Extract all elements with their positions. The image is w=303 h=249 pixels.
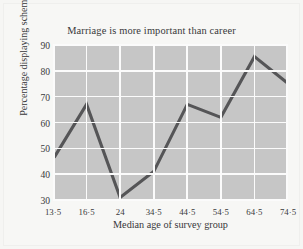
- gridline-vertical: [119, 45, 121, 200]
- chart-title: Marriage is more important than career: [0, 25, 303, 36]
- x-tick-label: 24: [116, 207, 125, 217]
- y-tick-label: 50: [24, 143, 50, 154]
- y-tick-label: 80: [24, 65, 50, 76]
- x-tick-label: 64·5: [246, 207, 262, 217]
- x-tick-label: 54·5: [213, 207, 229, 217]
- y-tick-label: 90: [24, 40, 50, 51]
- gridline-vertical: [186, 45, 188, 200]
- y-axis-ticks: 30405060708090: [20, 45, 50, 200]
- gridline-vertical: [286, 45, 288, 200]
- gridline-vertical: [86, 45, 88, 200]
- gridline-vertical: [220, 45, 222, 200]
- y-tick-label: 60: [24, 117, 50, 128]
- y-tick-label: 30: [24, 195, 50, 206]
- x-tick-label: 13·5: [45, 207, 61, 217]
- x-tick-label: 16·5: [79, 207, 95, 217]
- chart-figure: Marriage is more important than career P…: [0, 0, 303, 249]
- gridline-vertical: [53, 45, 55, 200]
- series-polyline: [54, 57, 287, 198]
- plot-area: [53, 45, 288, 200]
- y-tick-label: 40: [24, 169, 50, 180]
- x-tick-label: 74·5: [280, 207, 296, 217]
- x-tick-label: 44·5: [179, 207, 195, 217]
- gridline-vertical: [153, 45, 155, 200]
- x-axis-ticks: 13·516·52434·544·554·564·574·5: [53, 203, 288, 217]
- x-tick-label: 34·5: [146, 207, 162, 217]
- x-axis-label: Median age of survey group: [53, 219, 288, 230]
- gridline-vertical: [254, 45, 256, 200]
- y-tick-label: 70: [24, 91, 50, 102]
